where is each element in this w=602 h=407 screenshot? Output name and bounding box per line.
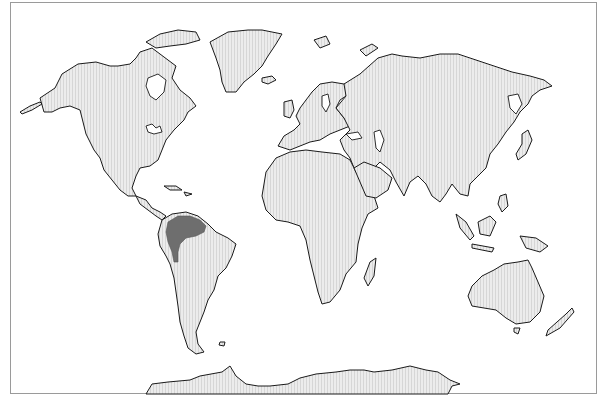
north-america [40, 48, 196, 196]
central-america [136, 196, 166, 220]
philippines [498, 194, 508, 212]
falkland-islands [219, 342, 225, 346]
australia [468, 260, 544, 324]
novaya-zemlya [360, 44, 378, 56]
tasmania [514, 328, 520, 334]
british-isles [284, 100, 294, 118]
new-guinea [520, 236, 548, 252]
svalbard [314, 36, 330, 48]
japan [516, 130, 532, 160]
new-zealand [546, 308, 574, 336]
alaska-aleutians [20, 102, 42, 114]
iceland [262, 76, 276, 84]
madagascar [364, 258, 376, 286]
world-map [0, 0, 602, 407]
arctic-islands [146, 30, 200, 48]
caribbean-islands [164, 186, 192, 196]
borneo [478, 216, 496, 236]
antarctica [146, 366, 460, 394]
